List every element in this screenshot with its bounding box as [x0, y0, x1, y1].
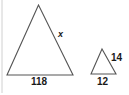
- large-triangle-side-label: x: [58, 29, 63, 39]
- triangles-drawing: [0, 0, 129, 95]
- similar-triangles-figure: x 118 14 12: [0, 0, 129, 95]
- large-triangle-base-label: 118: [31, 77, 47, 87]
- large-triangle: [7, 5, 73, 75]
- small-triangle-side-label: 14: [111, 53, 122, 63]
- small-triangle-base-label: 12: [97, 77, 108, 87]
